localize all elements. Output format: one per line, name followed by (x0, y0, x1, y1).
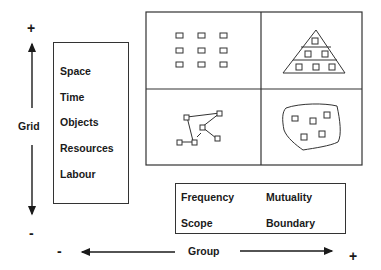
horizontal-axis-plus: + (349, 248, 357, 264)
grid-dimension-space: Space (60, 65, 91, 77)
isolated-grid-icon (176, 33, 227, 67)
vertical-axis-label: Grid (18, 120, 40, 132)
horizontal-axis-minus: - (57, 243, 62, 259)
grid-dimension-time: Time (60, 91, 84, 103)
network-icon (177, 111, 222, 145)
group-dimensions-box: Frequency Mutuality Scope Boundary (175, 183, 346, 234)
grid-dimensions-box: Space Time Objects Resources Labour (53, 42, 129, 204)
vertical-axis-plus: + (27, 20, 35, 36)
group-dimension-mutuality: Mutuality (266, 191, 312, 203)
grid-dimension-labour: Labour (60, 168, 96, 180)
vertical-axis-minus: - (29, 225, 34, 241)
horizontal-axis-label: Group (188, 245, 220, 257)
hierarchy-pyramid-icon (283, 30, 345, 73)
group-dimension-boundary: Boundary (266, 217, 315, 229)
grid-dimension-objects: Objects (60, 116, 99, 128)
group-dimension-frequency: Frequency (181, 191, 234, 203)
grid-dimension-resources: Resources (60, 142, 114, 154)
bounded-group-icon (283, 104, 341, 150)
group-dimension-scope: Scope (181, 217, 213, 229)
